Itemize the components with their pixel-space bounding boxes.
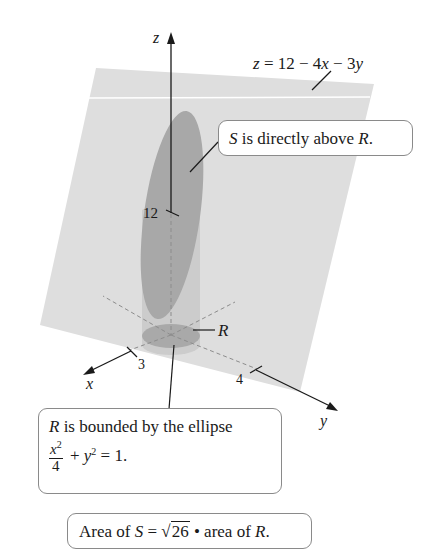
plane-equation-label: z = 12 − 4x − 3y [253, 55, 363, 72]
eq-z: z [253, 54, 260, 73]
ellipse-equation: x2 4 + y2 = 1. [49, 440, 281, 475]
x-axis [90, 351, 131, 371]
plane [40, 68, 374, 392]
area-S: S [135, 522, 144, 541]
z-intercept-label: 12 [143, 206, 158, 221]
callout-S: S [229, 129, 238, 148]
region-callout-text: is bounded by the ellipse [59, 417, 232, 436]
sqrt-26: √26 [161, 522, 189, 542]
callout-surface-text: is directly above [238, 129, 359, 148]
plane-highlight-line [89, 97, 370, 98]
ellipse-fraction: x2 4 [49, 440, 63, 475]
area-R: R [255, 522, 265, 541]
area-callout: Area of S = √26 • area of R. [67, 513, 312, 549]
y-intercept-label: 4 [236, 373, 243, 387]
radicand: 26 [171, 521, 190, 541]
x-intercept-label: 3 [138, 358, 145, 372]
eq-x: x [321, 54, 329, 73]
area-post: • area of [190, 522, 255, 541]
numerator-x: x [50, 441, 57, 457]
z-axis-label: z [153, 30, 159, 46]
area-period: . [265, 522, 269, 541]
region-callout: R is bounded by the ellipse x2 4 + y2 = … [38, 408, 282, 494]
callout-period: . [369, 129, 373, 148]
region-callout-R: R [49, 417, 59, 436]
eq-part1: = 12 − 4 [260, 54, 322, 73]
area-pre: Area of [79, 522, 135, 541]
eq-y: y [355, 54, 363, 73]
plus-sign: + [66, 446, 84, 465]
callout-R: R [358, 129, 368, 148]
sqrt-icon: √ [161, 522, 170, 541]
x-axis-label: x [86, 376, 93, 392]
y-axis-arrow-icon [326, 402, 338, 411]
fraction-denominator: 4 [52, 459, 60, 475]
equation-rhs: = 1. [96, 446, 127, 465]
area-eq: = [143, 522, 161, 541]
region-R-label: R [218, 322, 228, 339]
numerator-exp: 2 [57, 439, 62, 450]
region-callout-line1: R is bounded by the ellipse [49, 417, 281, 437]
surface-callout: S is directly above R. [218, 120, 413, 156]
y-axis-label: y [320, 413, 327, 429]
fraction-numerator: x2 [49, 440, 63, 459]
x-axis-arrow-icon [83, 366, 95, 375]
eq-part2: − 3 [329, 54, 356, 73]
z-axis-arrow-icon [167, 32, 175, 44]
